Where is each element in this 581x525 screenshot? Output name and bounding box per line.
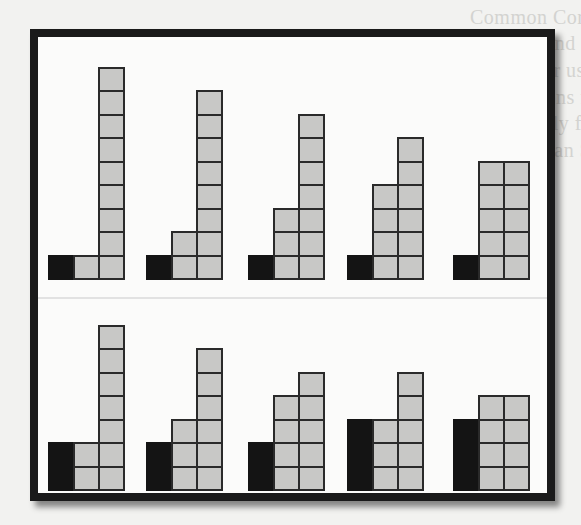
tall-column (196, 350, 223, 491)
bottom-row-group-3 (248, 372, 329, 492)
gray-block (503, 255, 530, 281)
tall-column (98, 69, 125, 281)
gray-block (503, 184, 530, 210)
gray-block (298, 231, 325, 257)
black-block (48, 442, 75, 468)
gray-block (171, 442, 198, 468)
filled-column (248, 257, 275, 281)
black-block (453, 442, 480, 468)
gray-block (273, 395, 300, 421)
gray-block (196, 231, 223, 257)
gray-block (273, 255, 300, 281)
gray-block (503, 161, 530, 187)
filled-column (347, 257, 374, 281)
gray-block (196, 90, 223, 116)
gray-block (98, 161, 125, 187)
gray-block (298, 255, 325, 281)
middle-column (273, 210, 300, 281)
bottom-row-group-5 (453, 395, 534, 491)
gray-block (503, 208, 530, 234)
gray-block (478, 466, 505, 492)
gray-block (478, 255, 505, 281)
gray-block (98, 208, 125, 234)
black-block (48, 255, 75, 281)
gray-block (98, 67, 125, 93)
black-block (146, 466, 173, 492)
gray-block (298, 372, 325, 398)
bottom-row-group-2 (146, 348, 227, 491)
middle-column (273, 397, 300, 491)
gray-block (196, 114, 223, 140)
gray-block (273, 208, 300, 234)
gray-block (478, 161, 505, 187)
gray-block (98, 231, 125, 257)
gray-block (298, 161, 325, 187)
gray-block (397, 419, 424, 445)
gray-block (503, 466, 530, 492)
gray-block (298, 419, 325, 445)
gray-block (478, 184, 505, 210)
gray-block (372, 466, 399, 492)
gray-block (98, 395, 125, 421)
gray-block (196, 372, 223, 398)
gray-block (397, 161, 424, 187)
bottom-row-group-1 (48, 325, 129, 492)
gray-block (196, 208, 223, 234)
gray-block (98, 184, 125, 210)
gray-block (98, 466, 125, 492)
gray-block (196, 348, 223, 374)
black-block (48, 466, 75, 492)
filled-column (48, 444, 75, 491)
gray-block (196, 255, 223, 281)
gray-block (73, 442, 100, 468)
figure-frame (30, 29, 555, 501)
filled-column (453, 421, 480, 492)
gray-block (298, 137, 325, 163)
gray-block (372, 231, 399, 257)
black-block (146, 442, 173, 468)
tall-column (298, 374, 325, 492)
top-row-group-4 (347, 137, 428, 280)
gray-block (298, 395, 325, 421)
tall-column (503, 397, 530, 491)
gray-block (397, 255, 424, 281)
gray-block (503, 419, 530, 445)
gray-block (171, 231, 198, 257)
black-block (347, 442, 374, 468)
gray-block (372, 184, 399, 210)
tall-column (196, 92, 223, 280)
gray-block (478, 208, 505, 234)
row-divider (38, 297, 547, 299)
black-block (248, 442, 275, 468)
gray-block (397, 466, 424, 492)
gray-block (397, 231, 424, 257)
gray-block (372, 419, 399, 445)
middle-column (372, 186, 399, 280)
gray-block (397, 208, 424, 234)
gray-block (298, 442, 325, 468)
gray-block (98, 325, 125, 351)
tall-column (298, 116, 325, 281)
middle-column (478, 397, 505, 491)
gray-block (503, 442, 530, 468)
gray-block (273, 231, 300, 257)
gray-block (298, 114, 325, 140)
filled-column (146, 257, 173, 281)
gray-block (478, 395, 505, 421)
filled-column (453, 257, 480, 281)
bg-line-1: Common Core State Standards, 2010, p. 6,… (470, 4, 581, 31)
gray-block (397, 442, 424, 468)
filled-column (248, 444, 275, 491)
filled-column (48, 257, 75, 281)
gray-block (171, 419, 198, 445)
middle-column (73, 257, 100, 281)
middle-column (171, 421, 198, 492)
gray-block (98, 419, 125, 445)
middle-column (171, 233, 198, 280)
gray-block (298, 184, 325, 210)
gray-block (478, 419, 505, 445)
gray-block (73, 255, 100, 281)
top-row-group-5 (453, 161, 534, 281)
black-block (248, 255, 275, 281)
gray-block (273, 466, 300, 492)
